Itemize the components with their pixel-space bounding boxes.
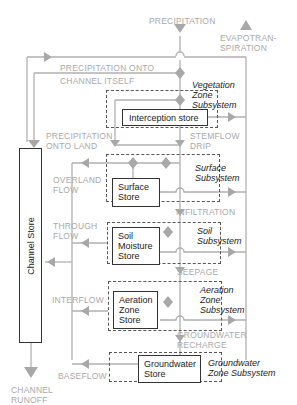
channel-store: Channel Store [19, 148, 42, 343]
aeration-subsystem-label: AerationZoneSubsystem [200, 285, 245, 315]
interception-store: Interception store [122, 109, 208, 126]
baseflow-label: BASEFLOW [58, 371, 107, 381]
seepage-label: SEEPAGE [177, 267, 218, 277]
precip-onto-land-label: PRECIPITATIONONTO LAND [46, 131, 113, 151]
aeration-zone-store: AerationZoneStore [113, 291, 158, 329]
channel-runoff-label: CHANNELRUNOFF [11, 385, 53, 405]
groundwater-recharge-label: GROUNDWATERRECHARGE [177, 330, 247, 350]
evapotranspiration-label: EVAPOTRAN-SPIRATION [220, 33, 277, 53]
surface-subsystem-label: SurfaceSubsystem [195, 163, 240, 183]
groundwater-store: GroundwaterStore [138, 355, 201, 383]
interflow-label: INTERFLOW [52, 295, 104, 305]
surface-store: SurfaceStore [112, 178, 160, 207]
vegetation-subsystem-label: VegetationZoneSubsystem [192, 80, 237, 110]
precip-onto-channel-label: PRECIPITATION ONTOCHANNEL ITSELF [60, 63, 154, 86]
through-flow-label: THROUGHFLOW [53, 221, 97, 241]
groundwater-subsystem-label: GroundwaterZone Subsystem [208, 358, 276, 378]
overland-flow-label: OVERLANDFLOW [53, 175, 101, 195]
stemflow-drip-label: STEMFLOWDRIP [190, 131, 240, 151]
soil-subsystem-label: SoilSubsystem [197, 226, 242, 246]
precipitation-label: PRECIPITATION [149, 16, 216, 26]
soil-moisture-store: SoilMoistureStore [112, 227, 160, 265]
infiltration-label: INFILTRATION [176, 207, 235, 217]
